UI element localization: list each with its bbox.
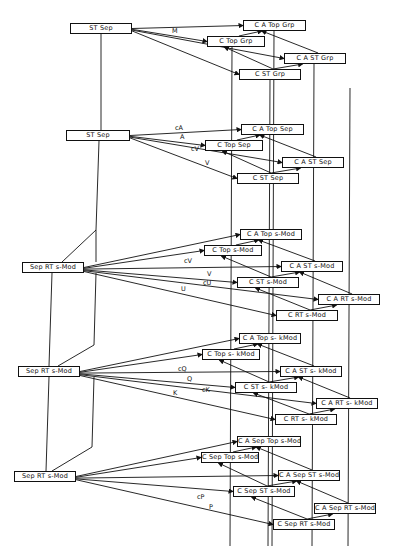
rail-line [272, 31, 274, 546]
edge-line [130, 130, 241, 136]
edge-label: K [173, 390, 177, 397]
target-node: C A ST Grp [284, 53, 346, 64]
rail-line [96, 141, 99, 230]
target-node: C Sep ST s-Mod [233, 486, 295, 497]
edge-label: V [207, 271, 211, 278]
edge-line [258, 344, 315, 366]
rail-line [268, 80, 270, 546]
edge-line [300, 272, 353, 294]
edge-label: U [181, 286, 186, 293]
source-node: Sep RT s-Mod [14, 471, 76, 482]
edge-label: cK [202, 387, 210, 394]
edge-line [256, 288, 311, 310]
edge-line [254, 393, 310, 414]
target-node: C Top Grp [207, 36, 265, 47]
target-node: C Sep Top s-Mod [201, 452, 259, 463]
edge-line [222, 151, 271, 173]
rail-line [230, 47, 232, 546]
edge-label: cP [197, 494, 205, 501]
rail-line [58, 345, 94, 366]
edge-line [256, 447, 312, 470]
target-node: C Top Sep [205, 140, 263, 151]
rail-line [92, 377, 94, 447]
edge-line [218, 463, 267, 486]
edge-line [132, 26, 243, 29]
edge-label: cV [184, 258, 192, 265]
edge-line [259, 240, 316, 261]
target-node: C A Top s- kMod [239, 333, 301, 344]
rail-line [46, 377, 49, 471]
edge-line [299, 377, 351, 398]
edge-label: Q [187, 376, 192, 383]
rail-line [348, 88, 350, 546]
target-node: C Top s-Mod [204, 245, 262, 256]
edge-label: cU [203, 280, 211, 287]
edge-label: V [205, 160, 209, 167]
edge-line [297, 481, 349, 503]
source-node: ST Sep [70, 23, 132, 34]
target-node: C ST s-Mod [237, 277, 299, 288]
edge-line [260, 135, 316, 157]
target-node: C RT s-Mod [276, 310, 338, 321]
target-node: C A ST s-Mod [281, 261, 343, 272]
edge-label: A [180, 134, 184, 141]
source-node: Sep RT s-Mod [22, 262, 84, 273]
target-node: C A RT s- kMod [316, 398, 378, 409]
diagram-canvas [0, 0, 400, 546]
edge-line [252, 497, 308, 519]
target-node: C A Top Sep [241, 124, 304, 135]
rail-line [52, 447, 92, 471]
target-node: C A Top s-Mod [240, 229, 302, 240]
rail-line [62, 230, 96, 262]
edge-line [219, 360, 269, 382]
rail-line [49, 273, 52, 366]
edge-line [262, 31, 318, 53]
target-node: C ST Grp [239, 69, 301, 80]
target-node: C A Sep ST s-Mod [278, 470, 340, 481]
source-node: ST Sep [66, 130, 130, 141]
target-node: C RT s- kMod [275, 414, 337, 425]
target-node: C A Sep RT s-Mod [314, 503, 376, 514]
target-node: C ST Sep [237, 173, 299, 184]
edge-label: cQ [178, 366, 187, 373]
target-node: C Sep RT s-Mod [273, 519, 335, 530]
edge-label: cV [191, 146, 199, 153]
rail-line [94, 273, 96, 345]
target-node: C A Top Grp [243, 20, 306, 31]
target-node: C Top s- kMod [202, 349, 260, 360]
target-node: C ST s- kMod [235, 382, 297, 393]
edge-label: M [172, 28, 178, 35]
target-node: C A ST s- kMod [280, 366, 342, 377]
source-node: Sep RT s-Mod [18, 366, 80, 377]
edge-line [84, 270, 237, 283]
target-node: C A RT s-Mod [318, 294, 380, 305]
edge-label: cA [175, 125, 183, 132]
edge-label: P [209, 504, 213, 511]
target-node: C A Sep Top s-Mod [237, 436, 301, 447]
target-node: C A ST Sep [282, 157, 344, 168]
edge-line [76, 458, 201, 478]
